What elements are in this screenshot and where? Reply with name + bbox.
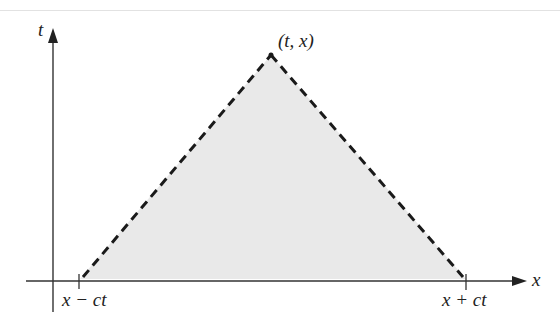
base-left-label: x − ct [62, 290, 106, 309]
x-axis-label: x [532, 270, 540, 289]
x-axis-arrow-icon [512, 276, 527, 286]
shaded-triangle-region [80, 55, 466, 279]
apex-label: (t, x) [278, 31, 314, 50]
t-axis-arrow-icon [48, 28, 58, 43]
t-axis-label: t [38, 20, 43, 39]
apex-point [269, 53, 274, 58]
base-right-label: x + ct [442, 290, 486, 309]
